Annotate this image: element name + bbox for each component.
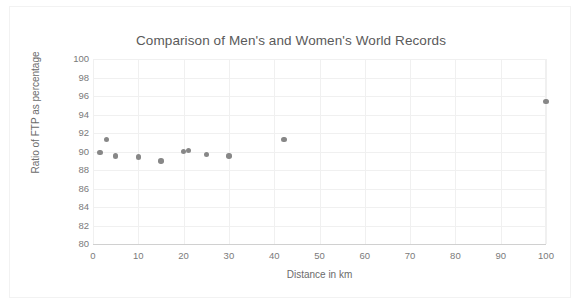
x-axis-tick-labels: 0102030405060708090100 <box>93 250 546 264</box>
data-point[interactable] <box>158 158 164 164</box>
x-axis-tick-label: 90 <box>481 250 521 261</box>
data-point[interactable] <box>97 150 103 156</box>
x-axis-tick-label: 50 <box>300 250 340 261</box>
x-axis-line <box>93 244 546 245</box>
x-axis-tick-label: 40 <box>254 250 294 261</box>
x-axis-title: Distance in km <box>93 269 546 280</box>
gridline-vertical <box>93 59 94 244</box>
y-axis-tick-label: 82 <box>59 221 89 231</box>
data-point[interactable] <box>543 99 549 105</box>
gridline-vertical <box>320 59 321 244</box>
y-axis-tick-label: 96 <box>59 91 89 101</box>
gridline-vertical <box>274 59 275 244</box>
x-axis-tick-label: 30 <box>209 250 249 261</box>
x-axis-tick-label: 100 <box>526 250 566 261</box>
data-point[interactable] <box>281 137 287 143</box>
y-axis-tick-label: 94 <box>59 110 89 120</box>
x-axis-tick-label: 10 <box>118 250 158 261</box>
data-point[interactable] <box>113 153 119 159</box>
gridline-vertical <box>138 59 139 244</box>
gridline-vertical <box>410 59 411 244</box>
x-axis-tick-label: 80 <box>435 250 475 261</box>
data-point[interactable] <box>204 152 210 158</box>
x-axis-tick-label: 0 <box>73 250 113 261</box>
data-point[interactable] <box>104 137 110 143</box>
data-point[interactable] <box>136 154 142 160</box>
chart-title: Comparison of Men's and Women's World Re… <box>10 33 572 48</box>
x-axis-tick-label: 60 <box>345 250 385 261</box>
gridline-vertical <box>229 59 230 244</box>
y-axis-tick-labels: 80828486889092949698100 <box>55 59 89 244</box>
y-axis-tick-label: 100 <box>59 54 89 64</box>
data-point[interactable] <box>226 153 232 159</box>
y-axis-title: Ratio of FTP as percentage <box>30 33 41 193</box>
y-axis-tick-label: 80 <box>59 239 89 249</box>
gridline-vertical <box>546 59 547 244</box>
gridline-vertical <box>501 59 502 244</box>
y-axis-tick-label: 92 <box>59 128 89 138</box>
y-axis-tick-label: 98 <box>59 73 89 83</box>
chart-container: Comparison of Men's and Women's World Re… <box>9 6 571 298</box>
x-axis-tick-label: 70 <box>390 250 430 261</box>
gridline-vertical <box>365 59 366 244</box>
y-axis-tick-label: 86 <box>59 184 89 194</box>
x-axis-tick-label: 20 <box>164 250 204 261</box>
y-axis-tick-label: 90 <box>59 147 89 157</box>
plot-area <box>93 59 546 244</box>
gridline-vertical <box>455 59 456 244</box>
y-axis-tick-label: 84 <box>59 202 89 212</box>
y-axis-tick-label: 88 <box>59 165 89 175</box>
